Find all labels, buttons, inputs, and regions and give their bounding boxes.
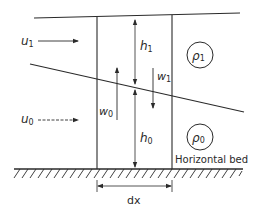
dx-label: dx: [127, 194, 141, 207]
two-layer-flow-diagram: u1 u0 h1 h0 w0 w1 ρ1 ρ0 Horizontal bed d…: [0, 0, 256, 216]
u0-label: u0: [21, 112, 34, 127]
rho0-label: ρ0: [192, 131, 205, 145]
w0-label: w0: [99, 105, 113, 119]
w1-label: w1: [157, 70, 171, 84]
h1-label: h1: [140, 39, 153, 54]
horizontal-bed-label: Horizontal bed: [175, 154, 248, 165]
free-surface-line: [34, 13, 240, 18]
interface-line: [30, 64, 244, 112]
rho1-label: ρ1: [192, 49, 205, 63]
h0-label: h0: [140, 131, 153, 146]
horizontal-bed: [14, 169, 243, 178]
u1-label: u1: [21, 34, 34, 49]
